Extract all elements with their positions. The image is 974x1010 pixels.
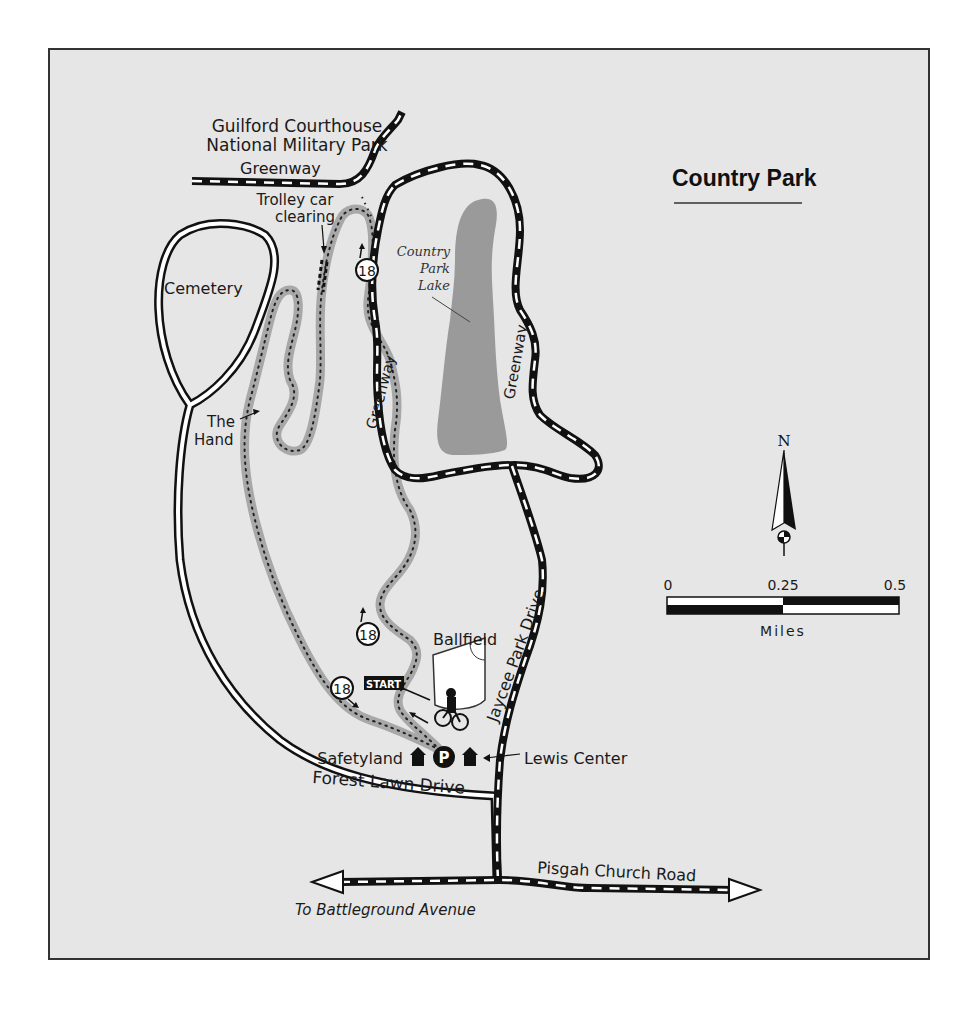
trolley-label-line2: clearing [275,208,335,226]
parking-label: P [439,749,450,767]
hand-label-line1: The [206,413,235,431]
start-label: START [366,679,401,690]
country-park-lake [437,199,507,455]
compass-north-label: N [777,432,790,450]
hand-label-line2: Hand [194,431,234,449]
pisgah-label: Pisgah Church Road [537,858,697,885]
safetyland-building-icon [410,747,426,766]
park-label-line2: National Military Park [206,135,388,155]
park-label-line1: Guilford Courthouse [212,116,383,136]
jaycee-label: Jaycee Park Drive [483,586,549,725]
battleground-label: To Battleground Avenue [295,901,476,919]
scale-tick-2: 0.5 [884,577,906,593]
scale-tick-1: 0.25 [767,577,798,593]
greenway-top-label: Greenway [240,159,321,178]
lake-label-line2: Park [419,261,450,276]
route-marker-3-label: 18 [333,681,351,697]
cemetery-label: Cemetery [164,279,243,298]
scale-unit: Miles [760,623,806,639]
route-marker-1-label: 18 [358,263,376,279]
trail-map: Guilford Courthouse National Military Pa… [0,0,974,1010]
lake-label-line3: Lake [417,278,450,293]
scale-bar [667,597,899,614]
scale-tick-0: 0 [664,577,673,593]
trolley-label-line1: Trolley car [256,191,335,209]
lewis-center-building-icon [462,747,478,766]
lewis-center-label: Lewis Center [524,749,628,768]
lake-label-line1: Country [397,244,451,259]
north-arrow-icon [772,450,796,556]
forest-lawn-label: Forest Lawn Drive [312,767,466,798]
safetyland-label: Safetyland [317,749,403,768]
greenway-right-label: Greenway [500,323,531,401]
route-marker-2-label: 18 [359,627,377,643]
map-title: Country Park [672,165,817,191]
ballfield-label: Ballfield [433,630,497,649]
